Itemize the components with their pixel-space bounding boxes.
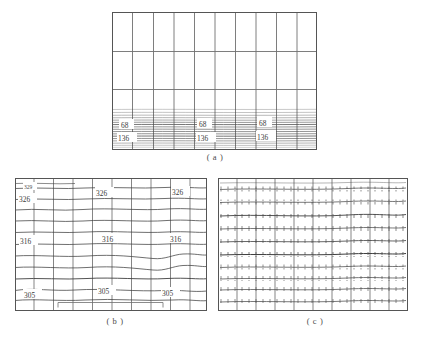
barbed-contour [220, 287, 406, 292]
panel-b: 329 326 326 326 316 316 316 305 305 30 [15, 178, 207, 311]
contour-label-326-right: 326 [172, 188, 183, 197]
contour-label-326-mid: 326 [96, 189, 107, 198]
barbed-contour [220, 226, 406, 231]
caption-c: ( c ) [255, 316, 375, 326]
contour-label-305-left: 305 [24, 291, 35, 300]
contour-label-305-right: 305 [162, 289, 173, 298]
contour-label-316-mid: 316 [102, 235, 113, 244]
panel-a: 68 68 68 136 136 136 [112, 12, 317, 150]
panel-b-plot: 329 326 326 326 316 316 316 305 305 30 [15, 178, 207, 311]
contour-label-136-right: 136 [257, 133, 268, 142]
contour-label-316-left: 316 [20, 237, 31, 246]
contour-label-305-mid: 305 [98, 287, 109, 296]
barbed-contour [220, 213, 406, 218]
figure-container: 68 68 68 136 136 136 ( a ) [0, 0, 421, 344]
contour-label-68-mid: 68 [199, 120, 207, 129]
barbed-contour [220, 187, 406, 192]
caption-a: ( a ) [150, 152, 280, 162]
barbed-contour [220, 276, 406, 281]
barbed-contour [220, 265, 406, 270]
contour-label-68-left: 68 [121, 121, 129, 130]
contour-label-136-mid: 136 [197, 134, 208, 143]
contour-label-136-left: 136 [118, 134, 129, 143]
panel-c [218, 178, 408, 311]
barbed-contour [220, 299, 406, 304]
barbed-contour [220, 200, 406, 205]
panel-a-plot: 68 68 68 136 136 136 [112, 12, 317, 150]
panel-c-plot [218, 178, 408, 311]
barbed-contour [220, 239, 406, 244]
contour-label-68-right: 68 [259, 119, 267, 128]
contour-label-326-left: 326 [19, 195, 30, 204]
caption-b: ( b ) [55, 316, 175, 326]
contour-label-329: 329 [24, 184, 33, 190]
barbed-contour [220, 252, 406, 257]
contour-label-316-right: 316 [170, 235, 181, 244]
